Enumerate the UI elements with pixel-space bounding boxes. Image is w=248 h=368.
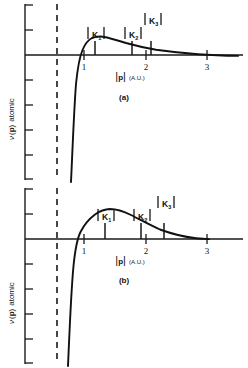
y-axis-title-a: ν(p)atomic xyxy=(7,98,16,140)
y-axis-title-b: ν(p)atomic xyxy=(7,282,16,324)
k-label-b-1-text: K1 xyxy=(102,212,111,223)
panel-a: 1 2 3 K1 K2 K3 xyxy=(0,0,248,184)
panel-a-plot: 1 2 3 K1 K2 K3 xyxy=(0,0,248,184)
x-axis-title-b: |p|(A.U.) xyxy=(115,254,144,266)
x-tick-label-a-1: 1 xyxy=(82,62,87,72)
panel-caption-a: (a) xyxy=(119,93,129,102)
figure-container: 1 2 3 K1 K2 K3 xyxy=(0,0,248,368)
panel-b-plot: 1 2 3 K1 K2 K3 xyxy=(0,184,248,368)
k-label-b-3-text: K3 xyxy=(162,199,171,210)
curve-b xyxy=(68,209,209,366)
x-tick-label-b-1: 1 xyxy=(82,246,87,256)
panel-b: 1 2 3 K1 K2 K3 xyxy=(0,184,248,368)
k-label-a-3-text: K3 xyxy=(149,16,158,27)
x-tick-label-b-3: 3 xyxy=(205,246,210,256)
x-tick-label-a-2: 2 xyxy=(144,62,149,72)
k-label-a-1-text: K1 xyxy=(92,30,101,41)
k-label-b-3: K3 xyxy=(158,196,174,210)
k-label-a-2-text: K2 xyxy=(129,30,138,41)
x-axis-title-a: |p|(A.U.) xyxy=(115,70,144,82)
k-label-a-3: K3 xyxy=(145,13,161,27)
k-label-a-2: K2 xyxy=(125,27,141,41)
panel-caption-b: (b) xyxy=(119,276,130,285)
x-tick-label-a-3: 3 xyxy=(205,62,210,72)
x-tick-label-b-2: 2 xyxy=(144,246,149,256)
curve-a xyxy=(71,37,238,182)
